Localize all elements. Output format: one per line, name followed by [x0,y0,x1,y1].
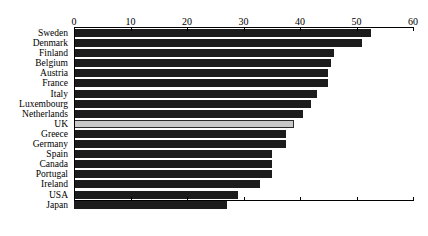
axis-tick [300,197,301,201]
axis-left-line [74,27,75,201]
category-label: Greece [0,129,72,139]
bar-row [74,200,413,210]
horizontal-bar-chart: SwedenDenmarkFinlandBelgiumAustriaFrance… [0,0,428,236]
bar-row [74,129,413,139]
axis-tick-labels: 0102030405060 [74,8,413,22]
axis-tick [300,27,301,31]
bar [74,160,272,168]
axis-tick-label: 0 [72,16,77,27]
axis-ticks-top [74,27,413,28]
bar-row [74,89,413,99]
bar-row [74,139,413,149]
category-label: Denmark [0,38,72,48]
bar-row [74,68,413,78]
bar [74,130,286,138]
axis-tick [413,27,414,31]
bar [74,170,272,178]
category-label: USA [0,190,72,200]
axis-tick-label: 20 [182,16,192,27]
bar [74,150,272,158]
bar-row [74,48,413,58]
category-label: France [0,78,72,88]
bar-row [74,179,413,189]
axis-tick [244,197,245,201]
bar [74,29,371,37]
axis-tick-label: 30 [239,16,249,27]
category-label: Ireland [0,179,72,189]
axis-tick [413,197,414,201]
axis-tick [131,197,132,201]
category-axis-labels: SwedenDenmarkFinlandBelgiumAustriaFrance… [0,28,72,210]
bar-row [74,159,413,169]
axis-tick [357,27,358,31]
plot-area [74,28,413,200]
axis-tick [131,27,132,31]
axis-tick-label: 50 [352,16,362,27]
bar-row [74,149,413,159]
bar-row [74,58,413,68]
bar [74,69,328,77]
category-label: Netherlands [0,109,72,119]
category-label: Italy [0,89,72,99]
bar-highlighted [74,120,294,128]
category-label: Japan [0,200,72,210]
bar [74,180,260,188]
category-label: Spain [0,149,72,159]
bar [74,59,331,67]
axis-ticks-bottom [74,197,413,201]
axis-tick [357,197,358,201]
category-label: Austria [0,68,72,78]
bar-row [74,119,413,129]
bar [74,201,227,209]
axis-tick [74,27,75,31]
bar-row [74,38,413,48]
bar [74,49,334,57]
axis-tick [187,27,188,31]
axis-tick [187,197,188,201]
category-label: Portugal [0,169,72,179]
axis-tick-label: 10 [126,16,136,27]
bar [74,79,328,87]
category-label: Sweden [0,28,72,38]
axis-tick [74,197,75,201]
category-label: Canada [0,159,72,169]
axis-tick-label: 40 [295,16,305,27]
bar [74,100,311,108]
category-label: Finland [0,48,72,58]
bar-row [74,78,413,88]
category-label: Luxembourg [0,99,72,109]
bar-row [74,109,413,119]
category-label: UK [0,119,72,129]
bar [74,140,286,148]
bar [74,90,317,98]
bar-row [74,169,413,179]
bar [74,110,303,118]
axis-tick [244,27,245,31]
bar [74,39,362,47]
category-label: Germany [0,139,72,149]
bar-row [74,99,413,109]
axis-tick-label: 60 [408,16,418,27]
category-label: Belgium [0,58,72,68]
